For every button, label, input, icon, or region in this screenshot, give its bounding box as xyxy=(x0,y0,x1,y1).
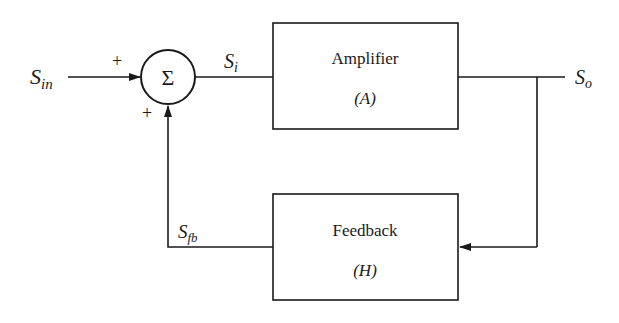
error-signal-label: Si xyxy=(224,50,238,75)
sigma-symbol: Σ xyxy=(162,65,175,90)
feedback-block xyxy=(273,194,458,300)
plus-sign-top: + xyxy=(112,51,122,71)
amplifier-title: Amplifier xyxy=(331,49,398,68)
amplifier-block xyxy=(273,23,458,129)
input-signal-label: Sin xyxy=(30,64,53,92)
feedback-diagram: Sin + + Σ Si Amplifier (A) So Feedback (… xyxy=(0,0,619,323)
feedback-signal-label: Sfb xyxy=(178,221,198,245)
feedback-title: Feedback xyxy=(332,221,398,240)
plus-sign-bottom: + xyxy=(142,103,152,123)
feedback-symbol: (H) xyxy=(353,261,377,280)
output-signal-label: So xyxy=(575,66,592,91)
amplifier-symbol: (A) xyxy=(354,89,376,108)
